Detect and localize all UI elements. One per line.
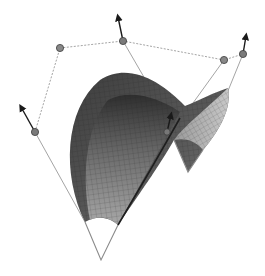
control-point[interactable] — [56, 44, 63, 51]
control-point[interactable] — [31, 128, 38, 135]
control-point[interactable] — [220, 56, 227, 63]
control-point[interactable] — [119, 37, 126, 44]
control-point[interactable] — [239, 50, 246, 57]
arrow-icon — [21, 107, 35, 132]
surface-diagram — [0, 0, 265, 276]
surface-mesh-inner — [86, 95, 180, 225]
figure-canvas — [0, 0, 265, 276]
control-point[interactable] — [164, 129, 170, 135]
